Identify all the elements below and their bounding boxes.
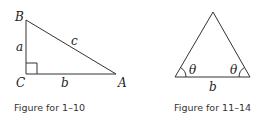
figures-canvas: B C A a b c Figure for 1–10 θ θ b Figure… (0, 0, 263, 119)
right-triangle-figure: B C A a b c Figure for 1–10 (14, 10, 127, 113)
right-angle-marker (26, 63, 37, 74)
side-c-label: c (71, 34, 78, 48)
figure-caption-1: Figure for 1–10 (14, 102, 85, 113)
side-b-label: b (61, 76, 69, 90)
vertex-b-label: B (14, 10, 24, 24)
side-a-label: a (16, 40, 23, 54)
left-angle-arc (181, 68, 187, 78)
angle-theta-left-label: θ (189, 63, 197, 77)
figure-caption-2: Figure for 11–14 (174, 102, 251, 113)
right-angle-arc (239, 68, 245, 78)
vertex-a-label: A (117, 76, 127, 90)
isosceles-triangle-outline (175, 12, 250, 77)
vertex-c-label: C (16, 76, 25, 90)
isosceles-triangle-figure: θ θ b Figure for 11–14 (174, 12, 251, 113)
angle-theta-right-label: θ (230, 63, 238, 77)
base-b-label: b (209, 80, 217, 94)
